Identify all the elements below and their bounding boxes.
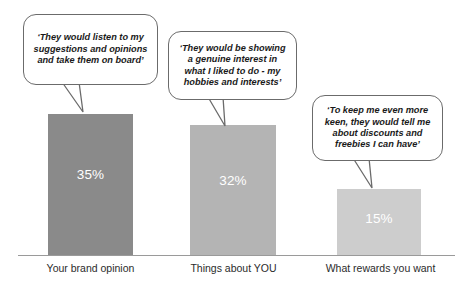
axis-baseline <box>18 255 455 256</box>
bar-what-rewards-you-want: 15% <box>337 189 421 255</box>
bar-value-label: 32% <box>190 173 276 188</box>
bar-value-label: 15% <box>337 211 421 226</box>
category-label-things-about-you: Things about YOU <box>163 262 304 274</box>
speech-bubble-text: ‘They would listen to my suggestions and… <box>29 32 153 66</box>
bar-value-label: 35% <box>48 167 133 182</box>
speech-bubble-what-rewards-you-want: ‘To keep me even more keen, they would t… <box>312 95 443 161</box>
speech-bubble-tail-1 <box>56 80 102 116</box>
category-label-what-rewards-you-want: What rewards you want <box>308 262 453 274</box>
speech-bubble-things-about-you: ‘They would be showing a genuine interes… <box>168 31 297 100</box>
speech-bubble-text: ‘They would be showing a genuine interes… <box>174 43 290 89</box>
bar-your-brand-opinion: 35% <box>48 114 133 255</box>
speech-bubble-tail-3 <box>348 156 392 192</box>
category-label-your-brand-opinion: Your brand opinion <box>20 262 161 274</box>
bar-things-about-you: 32% <box>190 125 276 255</box>
bar-chart-figure: 35% 32% 15% Your brand opinion Things ab… <box>0 0 469 292</box>
speech-bubble-your-brand-opinion: ‘They would listen to my suggestions and… <box>23 14 158 85</box>
speech-bubble-text: ‘To keep me even more keen, they would t… <box>320 105 436 151</box>
speech-bubble-tail-2 <box>203 95 245 131</box>
